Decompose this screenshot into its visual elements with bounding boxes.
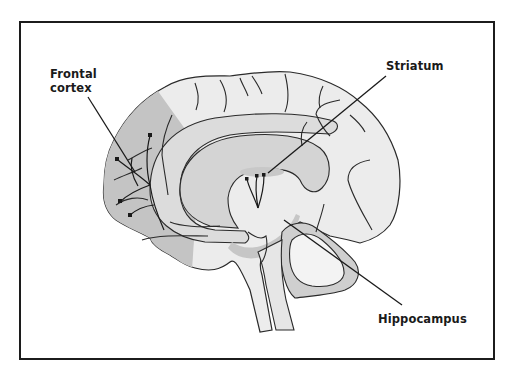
label-striatum: Striatum bbox=[386, 59, 444, 73]
label-hippocampus: Hippocampus bbox=[378, 312, 467, 326]
label-frontal-line1: Frontal bbox=[50, 67, 97, 81]
label-frontal-cortex: Frontal cortex bbox=[50, 67, 97, 95]
label-frontal-line2: cortex bbox=[50, 81, 97, 95]
